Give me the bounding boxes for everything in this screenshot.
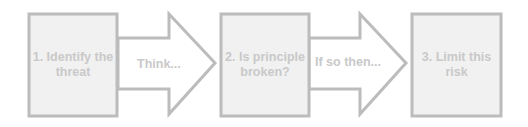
arrow-label-2: If so then... [315, 54, 381, 70]
arrow-label-1: Think... [137, 56, 181, 72]
step-label-3: 3. Limit this risk [414, 16, 499, 114]
step-label-2: 2. Is principle broken? [223, 16, 307, 114]
step-label-1: 1. Identify the threat [31, 16, 115, 114]
